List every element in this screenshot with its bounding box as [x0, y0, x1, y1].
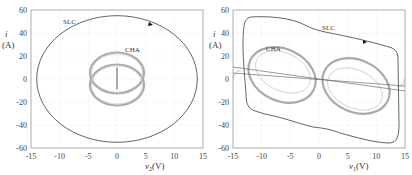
right-ylabel-main: i — [213, 29, 216, 39]
left-xlabel: v2(V) — [145, 161, 165, 172]
svg-text:0: 0 — [225, 75, 229, 84]
svg-text:-5: -5 — [287, 152, 294, 161]
left-ylabel-unit: (A) — [2, 40, 15, 50]
right-y-ticks: 60 40 20 0 -20 -40 -60 — [218, 6, 229, 153]
left-slc-label: SLC — [63, 18, 76, 26]
svg-text:15: 15 — [401, 152, 409, 161]
svg-text:-20: -20 — [218, 98, 229, 107]
svg-text:60: 60 — [19, 6, 27, 15]
svg-text:-40: -40 — [16, 121, 27, 130]
left-x-ticks: -15 -10 -5 0 5 10 15 — [26, 152, 207, 161]
svg-text:40: 40 — [19, 29, 27, 38]
svg-text:-40: -40 — [218, 121, 229, 130]
svg-text:-15: -15 — [228, 152, 239, 161]
right-x-ticks: -15 -10 -5 0 5 10 15 — [228, 152, 409, 161]
svg-text:40: 40 — [221, 29, 229, 38]
right-ylabel-unit: (A) — [209, 40, 222, 50]
svg-text:-15: -15 — [26, 152, 37, 161]
svg-text:0: 0 — [115, 152, 119, 161]
right-slc-label: SLC — [322, 24, 335, 32]
svg-text:0: 0 — [317, 152, 321, 161]
svg-text:10: 10 — [372, 152, 380, 161]
svg-text:-10: -10 — [54, 152, 65, 161]
left-y-ticks: 60 40 20 0 -20 -40 -60 — [16, 6, 27, 153]
svg-text:60: 60 — [221, 6, 229, 15]
svg-text:20: 20 — [221, 52, 229, 61]
left-slc-arrow-icon — [148, 22, 153, 26]
svg-text:-5: -5 — [85, 152, 92, 161]
left-ylabel-main: i — [5, 29, 8, 39]
left-plot: 60 40 20 0 -20 -40 -60 -15 -10 -5 0 5 10… — [2, 6, 207, 172]
left-cha-label: CHA — [125, 46, 140, 54]
svg-text:10: 10 — [170, 152, 178, 161]
right-cha-right-scroll — [313, 48, 398, 125]
svg-text:5: 5 — [144, 152, 148, 161]
right-plot: 60 40 20 0 -20 -40 -60 -15 -10 -5 0 5 10… — [209, 6, 409, 172]
right-xlabel: v1(V) — [349, 161, 369, 172]
svg-text:-20: -20 — [16, 98, 27, 107]
figure: 60 40 20 0 -20 -40 -60 -15 -10 -5 0 5 10… — [0, 0, 412, 175]
svg-text:20: 20 — [19, 52, 27, 61]
svg-text:-10: -10 — [256, 152, 267, 161]
svg-text:5: 5 — [346, 152, 350, 161]
svg-text:0: 0 — [23, 75, 27, 84]
svg-text:15: 15 — [199, 152, 207, 161]
right-cha-label: CHA — [266, 45, 281, 53]
